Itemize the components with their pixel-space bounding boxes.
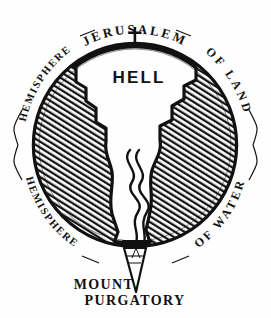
label-mount: MOUNT xyxy=(74,277,135,292)
dante-cosmology-figure: JERUSALEM HEMISPHERE OF LAND HEMISPHERE … xyxy=(0,0,271,318)
cosmology-diagram: JERUSALEM HEMISPHERE OF LAND HEMISPHERE … xyxy=(0,0,271,318)
label-purgatory: PURGATORY xyxy=(84,293,185,308)
label-hell: HELL xyxy=(112,68,165,87)
